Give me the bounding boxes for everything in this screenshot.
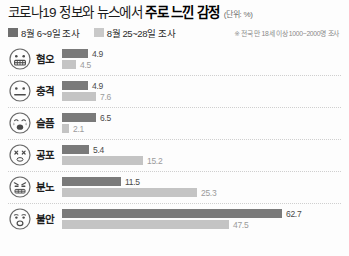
table-row: 충격 4.9 7.6 [8,75,341,107]
table-row: 불안 62.7 47.5 [8,203,341,235]
bar-value-survey-1: 62.7 [286,210,301,219]
bar-line-survey-1: 6.5 [62,113,341,122]
bar-value-survey-2: 4.5 [80,61,91,70]
row-bars: 4.9 4.5 [62,47,341,71]
bar-value-survey-1: 6.5 [100,114,111,123]
table-row: 혐오 4.9 4.5 [8,44,341,75]
bar-line-survey-2: 25.3 [62,188,341,197]
bar-survey-1 [62,145,89,154]
neutral-shocked-face-icon [8,79,32,103]
title-emphasis-text: 주로 느낀 감정 [145,6,220,21]
title-unit-label: (단위: %) [224,11,253,20]
table-row: 공포 5.4 15.2 [8,139,341,171]
bar-survey-1 [62,81,88,90]
legend-swatch-icon [8,28,18,37]
row-bars: 5.4 15.2 [62,143,341,167]
bar-survey-1 [62,209,282,218]
anxious-face-icon [8,207,32,231]
grimacing-face-icon [8,47,32,71]
bar-value-survey-2: 7.6 [100,93,111,102]
bar-survey-2 [62,156,143,165]
row-bars: 4.9 7.6 [62,79,341,103]
bar-line-survey-1: 5.4 [62,145,341,154]
bar-value-survey-1: 4.9 [92,82,103,91]
row-label: 혐오 [36,54,62,65]
row-bars: 11.5 25.3 [62,175,341,199]
bar-line-survey-2: 4.5 [62,60,341,69]
bar-survey-1 [62,113,96,122]
bar-line-survey-1: 62.7 [62,209,341,218]
crying-face-icon [8,111,32,135]
row-bars: 62.7 47.5 [62,207,341,231]
bar-line-survey-1: 11.5 [62,177,341,186]
row-label: 슬픔 [36,118,62,129]
bar-survey-2 [62,124,69,133]
bar-value-survey-2: 15.2 [147,157,162,166]
bar-line-survey-1: 4.9 [62,81,341,90]
bar-survey-2 [62,60,76,69]
bar-survey-2 [62,188,197,197]
bar-line-survey-2: 7.6 [62,92,341,101]
bar-value-survey-1: 5.4 [93,146,104,155]
bar-survey-1 [62,49,88,58]
bar-line-survey-2: 15.2 [62,156,341,165]
bar-line-survey-2: 47.5 [62,220,341,229]
title-main-text: 코로나19 정보와 뉴스에서 [8,6,142,21]
row-bars: 6.5 2.1 [62,111,341,135]
bar-survey-2 [62,92,96,101]
row-label: 불안 [36,214,62,225]
page-title: 코로나19 정보와 뉴스에서 주로 느낀 감정 (단위: %) [8,6,341,21]
row-label: 충격 [36,86,62,97]
bar-survey-2 [62,220,229,229]
bar-value-survey-2: 2.1 [73,125,84,134]
bar-value-survey-2: 25.3 [201,189,216,198]
row-label: 공포 [36,150,62,161]
fearful-squinting-face-icon [8,143,32,167]
chart-header: 코로나19 정보와 뉴스에서 주로 느낀 감정 (단위: %) 8월 6~9일 … [0,0,349,40]
bar-survey-1 [62,177,121,186]
emotion-bar-chart: 코로나19 정보와 뉴스에서 주로 느낀 감정 (단위: %) 8월 6~9일 … [0,0,349,256]
angry-face-icon [8,175,32,199]
row-label: 분노 [36,182,62,193]
bar-value-survey-1: 4.9 [92,50,103,59]
bar-line-survey-2: 2.1 [62,124,341,133]
legend-item-survey-1: 8월 6~9일 조사 [8,26,80,40]
source-note: ※ 전국 만 18세 이상 1000~2000명 조사 [234,28,341,38]
bar-value-survey-1: 11.5 [125,178,140,187]
chart-legend: 8월 6~9일 조사 8월 25~28일 조사 ※ 전국 만 18세 이상 10… [8,26,341,40]
chart-rows: 혐오 4.9 4.5 [0,44,349,235]
bar-line-survey-1: 4.9 [62,49,341,58]
bar-value-survey-2: 47.5 [233,221,248,230]
legend-item-label: 8월 25~28일 조사 [107,26,175,40]
legend-swatch-icon [94,28,104,37]
legend-item-label: 8월 6~9일 조사 [21,26,80,40]
legend-item-survey-2: 8월 25~28일 조사 [94,26,175,40]
table-row: 슬픔 6.5 2.1 [8,107,341,139]
table-row: 분노 11.5 25.3 [8,171,341,203]
